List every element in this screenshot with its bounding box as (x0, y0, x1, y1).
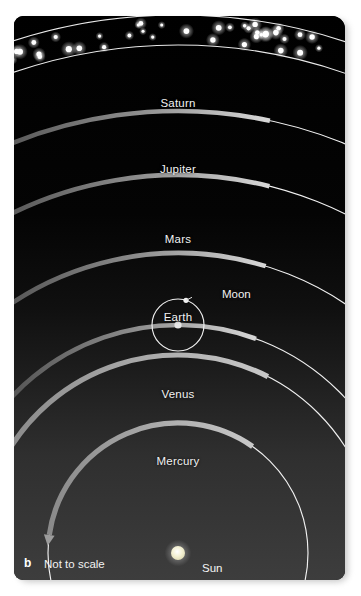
star (38, 54, 43, 59)
panel-letter: b (24, 556, 31, 570)
star (160, 24, 163, 27)
star (297, 50, 303, 56)
star (54, 35, 58, 39)
star (228, 25, 232, 29)
star (247, 26, 251, 30)
earth-body (174, 321, 181, 328)
star (102, 45, 106, 49)
not-to-scale-note: Not to scale (44, 558, 105, 570)
sun-body (165, 540, 192, 567)
star (260, 33, 263, 36)
star (317, 47, 320, 50)
star (278, 48, 284, 54)
star (137, 23, 140, 26)
star (210, 37, 215, 42)
star (283, 37, 287, 41)
figure-root: MercuryVenusEarthMarsJupiterSaturnMoon b… (0, 0, 361, 596)
solar-system-svg (14, 16, 345, 580)
star (184, 28, 190, 34)
solar-system-diagram-panel: MercuryVenusEarthMarsJupiterSaturnMoon b… (14, 16, 345, 580)
star (142, 30, 145, 33)
star (66, 46, 72, 52)
star (77, 46, 83, 52)
star (298, 32, 303, 37)
star (128, 34, 132, 38)
star (309, 34, 314, 39)
sun-label: Sun (202, 562, 222, 574)
star (17, 49, 23, 55)
star (276, 26, 281, 31)
star (31, 40, 36, 45)
star (216, 25, 222, 31)
star (242, 42, 247, 47)
star (98, 35, 101, 38)
sun-disc (171, 546, 185, 560)
star (151, 36, 154, 39)
